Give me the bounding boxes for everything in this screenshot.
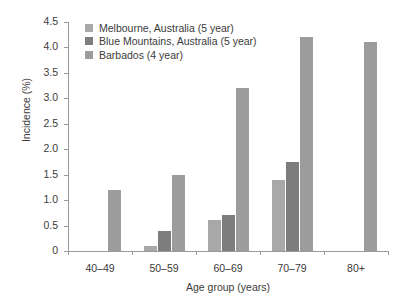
- bar: [208, 220, 221, 251]
- y-axis-tick-label: 2.5: [43, 117, 58, 129]
- x-axis-title: Age group (years): [68, 281, 388, 293]
- y-axis-tick-label: 3.5: [43, 66, 58, 78]
- x-axis-category-label: 60–69: [213, 262, 242, 274]
- x-axis-line: [68, 251, 388, 252]
- x-axis-tick-mark: [68, 251, 69, 255]
- x-axis-tick-mark: [196, 251, 197, 255]
- y-axis-tick-label: 3.0: [43, 91, 58, 103]
- bar: [272, 180, 285, 251]
- bar: [236, 88, 249, 251]
- legend-item-label: Melbourne, Australia (5 year): [99, 22, 234, 34]
- x-axis-tick-mark: [388, 251, 389, 255]
- x-axis-tick-mark: [260, 251, 261, 255]
- legend-item: Melbourne, Australia (5 year): [85, 21, 257, 35]
- y-axis-tick-label: 2.0: [43, 142, 58, 154]
- legend-swatch-icon: [85, 51, 93, 59]
- y-axis-tick-label: 1.5: [43, 168, 58, 180]
- x-axis-category-label: 50–59: [149, 262, 178, 274]
- y-axis-tick-label: 1.0: [43, 193, 58, 205]
- bar: [222, 215, 235, 251]
- bar: [286, 162, 299, 251]
- bar-chart: Incidence (%) 00.51.01.52.02.53.03.54.04…: [0, 0, 400, 301]
- y-axis-tick-label: 0.5: [43, 219, 58, 231]
- legend-swatch-icon: [85, 37, 93, 45]
- x-axis-category-label: 70–79: [277, 262, 306, 274]
- x-axis-tick-mark: [324, 251, 325, 255]
- legend-item-label: Barbados (4 year): [99, 49, 183, 61]
- legend-item-label: Blue Mountains, Australia (5 year): [99, 35, 257, 47]
- y-axis-title: Incidence (%): [20, 40, 32, 180]
- legend-swatch-icon: [85, 24, 93, 32]
- legend-item: Barbados (4 year): [85, 48, 257, 62]
- x-axis-category-label: 80+: [347, 262, 365, 274]
- bar: [108, 190, 121, 251]
- bar: [172, 175, 185, 251]
- x-axis-tick-mark: [132, 251, 133, 255]
- y-axis-tick-label: 4.0: [43, 40, 58, 52]
- y-axis-tick-label: 4.5: [43, 15, 58, 27]
- bar: [158, 231, 171, 251]
- bar: [144, 246, 157, 251]
- bar: [300, 37, 313, 251]
- chart-legend: Melbourne, Australia (5 year)Blue Mounta…: [85, 21, 257, 62]
- y-axis-tick-label: 0: [52, 244, 58, 256]
- x-axis-category-label: 40–49: [85, 262, 114, 274]
- bar: [364, 42, 377, 251]
- legend-item: Blue Mountains, Australia (5 year): [85, 35, 257, 49]
